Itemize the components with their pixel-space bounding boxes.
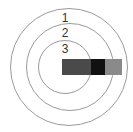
ring-label-1: 1	[59, 12, 71, 24]
ring-label-3: 3	[59, 43, 71, 55]
bar-segment-middle	[91, 59, 105, 75]
bar-segment-outer	[105, 59, 122, 75]
bar-segment-inner	[62, 59, 91, 75]
concentric-diagram: 1 2 3	[0, 0, 133, 132]
ring-label-2: 2	[59, 27, 71, 39]
